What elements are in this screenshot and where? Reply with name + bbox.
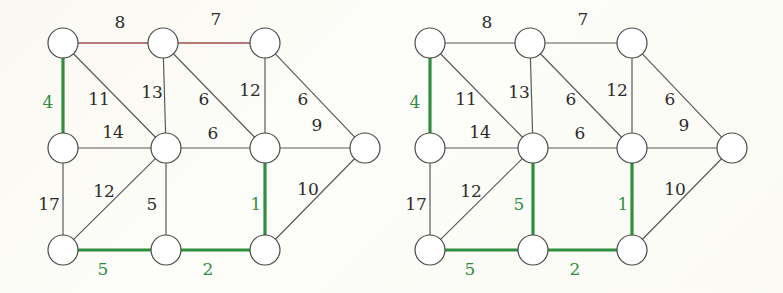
graph-edge	[276, 159, 355, 240]
edge-weight-label: 2	[570, 259, 581, 279]
node-bottom-left	[48, 235, 78, 265]
right-weighted-graph: 8741113612614691712511052	[405, 9, 747, 279]
edge-weight-label: 1	[251, 194, 262, 214]
edge-weight-label: 17	[38, 194, 60, 214]
edge-weight-label: 6	[575, 123, 586, 143]
edge-weight-label: 12	[606, 80, 628, 100]
node-center	[151, 133, 181, 163]
node-top-right	[617, 28, 647, 58]
edge-weight-label: 14	[102, 122, 124, 142]
edge-weight-label: 5	[98, 259, 109, 279]
edge-weight-label: 13	[508, 82, 530, 102]
edge-weight-label: 5	[514, 194, 525, 214]
edge-weight-label: 6	[665, 89, 676, 109]
node-bottom-middle	[151, 235, 181, 265]
node-bottom-right	[250, 235, 280, 265]
edge-layer	[430, 43, 722, 250]
node-far-right	[717, 133, 747, 163]
edge-weight-label: 11	[88, 89, 110, 109]
edge-weight-label: 14	[469, 122, 491, 142]
node-top-right	[250, 28, 280, 58]
edge-weight-label: 1	[618, 194, 629, 214]
edge-weight-label: 7	[211, 9, 222, 29]
node-layer	[48, 28, 380, 265]
edge-weight-label: 5	[147, 194, 158, 214]
node-top-left	[415, 28, 445, 58]
node-bottom-middle	[518, 235, 548, 265]
edge-weight-label: 8	[115, 12, 126, 32]
graph-pair-figure: 8741113612614691712511052874111361261469…	[0, 0, 783, 293]
edge-weight-label: 7	[578, 9, 589, 29]
edge-weight-label: 12	[93, 181, 115, 201]
edge-weight-label: 12	[460, 181, 482, 201]
node-bottom-right	[617, 235, 647, 265]
edge-weight-label: 6	[208, 123, 219, 143]
graph-edge	[643, 159, 722, 240]
node-top-left	[48, 28, 78, 58]
edge-weight-label: 17	[405, 194, 427, 214]
graph-edge	[163, 58, 165, 133]
edge-weight-label: 4	[410, 92, 421, 112]
node-bottom-left	[415, 235, 445, 265]
node-mid-left	[48, 133, 78, 163]
edge-weight-label: 4	[43, 92, 54, 112]
node-top-middle	[148, 28, 178, 58]
node-mid-left	[415, 133, 445, 163]
graph-edge	[530, 58, 532, 133]
edge-weight-label: 6	[199, 89, 210, 109]
node-top-middle	[515, 28, 545, 58]
node-layer	[415, 28, 747, 265]
edge-weight-label: 11	[455, 89, 477, 109]
node-far-right	[350, 133, 380, 163]
node-mid-right	[617, 133, 647, 163]
node-mid-right	[250, 133, 280, 163]
edge-weight-label: 9	[679, 115, 690, 135]
edge-weight-label: 8	[482, 12, 493, 32]
diagram-canvas: 8741113612614691712511052874111361261469…	[0, 0, 783, 293]
edge-weight-label: 6	[298, 89, 309, 109]
edge-weight-label: 6	[566, 89, 577, 109]
left-weighted-graph: 8741113612614691712511052	[38, 9, 380, 279]
node-center	[518, 133, 548, 163]
edge-weight-label: 9	[312, 115, 323, 135]
edge-weight-label: 13	[141, 82, 163, 102]
edge-weight-label: 10	[297, 179, 319, 199]
edge-weight-label: 5	[465, 259, 476, 279]
edge-layer	[63, 43, 355, 250]
edge-weight-label: 10	[664, 179, 686, 199]
edge-weight-label: 12	[239, 80, 261, 100]
edge-weight-label: 2	[203, 259, 214, 279]
